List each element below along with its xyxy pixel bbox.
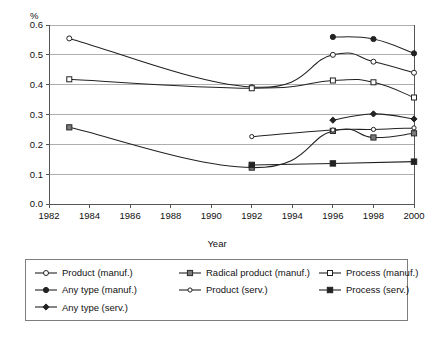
plot-area: 0.00.10.20.30.40.50.61982198419861988199… (0, 0, 435, 252)
data-point-marker (411, 131, 416, 136)
legend-item-label: Product (manuf.) (62, 268, 133, 278)
legend-marker-open-square-icon (318, 268, 342, 278)
data-point-marker (330, 52, 335, 57)
gridlines (49, 25, 414, 204)
data-point-marker (371, 127, 375, 131)
data-point-marker (330, 78, 335, 83)
data-point-marker (371, 135, 376, 140)
legend-marker-filled-circle-icon (34, 285, 58, 295)
data-point-marker (411, 116, 417, 122)
data-point-marker (44, 270, 49, 275)
data-point-marker (371, 36, 376, 41)
data-point-marker (371, 80, 376, 85)
data-point-marker (330, 34, 335, 39)
data-point-marker (412, 70, 417, 75)
data-point-marker (331, 128, 335, 132)
data-point-marker (411, 51, 416, 56)
axes (46, 25, 414, 208)
y-axis-label: % (30, 10, 39, 21)
legend-item-label: Any type (serv.) (62, 303, 128, 313)
x-tick-label: 1990 (201, 210, 222, 221)
data-point-marker (67, 125, 72, 130)
series-line (69, 79, 414, 97)
data-point-marker (250, 134, 254, 138)
legend-item-label: Product (serv.) (206, 285, 268, 295)
legend-item-1[interactable]: Product (manuf.) (34, 264, 178, 281)
legend-item-7[interactable]: Any type (serv.) (34, 299, 178, 316)
x-tick-label: 1988 (160, 210, 181, 221)
x-tick-label: 1984 (79, 210, 100, 221)
series-1 (67, 36, 417, 90)
data-point-marker (67, 36, 72, 41)
data-point-marker (249, 86, 254, 91)
x-tick-label: 1992 (241, 210, 262, 221)
x-tick-label: 1986 (120, 210, 141, 221)
x-tick-label: 2000 (403, 210, 424, 221)
y-tick-label: 0.5 (30, 49, 43, 60)
data-point-marker (370, 111, 376, 117)
data-point-marker (188, 288, 192, 292)
data-point-marker (412, 95, 417, 100)
y-tick-label: 0.3 (30, 109, 43, 120)
legend-item-2[interactable]: Radical product (manuf.) (178, 264, 318, 281)
legend-marker-filled-square-icon (318, 285, 342, 295)
y-tick-label: 0.1 (30, 169, 43, 180)
legend-grid: Product (manuf.)Radical product (manuf.)… (26, 260, 407, 320)
legend-item-label: Radical product (manuf.) (206, 268, 310, 278)
data-point-marker (330, 161, 335, 166)
chart-legend: Product (manuf.)Radical product (manuf.)… (25, 259, 408, 321)
y-tick-label: 0.4 (30, 79, 43, 90)
data-point-marker (187, 270, 192, 275)
data-point-marker (371, 59, 376, 64)
data-point-marker (43, 304, 49, 310)
series-7 (330, 111, 417, 123)
data-point-marker (328, 270, 333, 275)
x-axis-label: Year (207, 238, 226, 249)
legend-marker-open-circle-icon (34, 268, 58, 278)
legend-item-5[interactable]: Product (serv.) (178, 281, 318, 298)
series-3 (67, 77, 417, 100)
data-point-marker (412, 126, 416, 130)
legend-item-label: Process (manuf.) (346, 268, 418, 278)
legend-marker-small-circle-icon (178, 285, 202, 295)
y-tick-label: 0.6 (30, 19, 43, 30)
data-point-marker (43, 287, 48, 292)
data-point-marker (67, 77, 72, 82)
y-tick-label: 0.0 (30, 198, 43, 209)
legend-item-6[interactable]: Process (serv.) (318, 281, 417, 298)
x-tick-label: 1982 (38, 210, 59, 221)
line-chart-svg: 0.00.10.20.30.40.50.61982198419861988199… (0, 0, 435, 252)
x-tick-label: 1994 (282, 210, 303, 221)
tick-labels: 0.00.10.20.30.40.50.61982198419861988199… (30, 19, 425, 221)
data-point-marker (411, 159, 416, 164)
data-point-marker (327, 287, 332, 292)
series-line (69, 127, 414, 167)
data-point-marker (249, 162, 254, 167)
legend-item-3[interactable]: Process (manuf.) (318, 264, 417, 281)
series-2 (67, 125, 417, 170)
x-tick-label: 1998 (363, 210, 384, 221)
legend-item-4[interactable]: Any type (manuf.) (34, 281, 178, 298)
legend-item-label: Any type (manuf.) (62, 285, 137, 295)
data-point-marker (330, 117, 336, 123)
x-tick-label: 1996 (322, 210, 343, 221)
legend-marker-grey-square-icon (178, 268, 202, 278)
y-tick-label: 0.2 (30, 139, 43, 150)
chart-figure: 0.00.10.20.30.40.50.61982198419861988199… (0, 0, 435, 338)
legend-marker-filled-diamond-icon (34, 302, 58, 312)
legend-item-label: Process (serv.) (346, 285, 409, 295)
